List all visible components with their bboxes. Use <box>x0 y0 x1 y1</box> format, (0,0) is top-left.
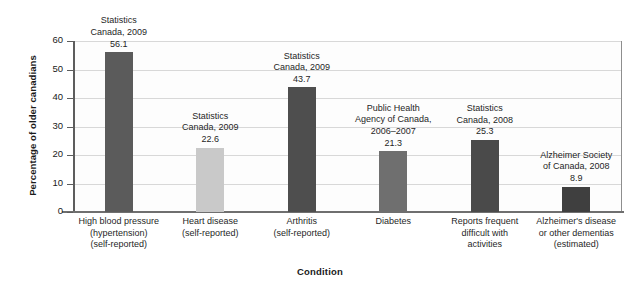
bar <box>105 52 133 212</box>
y-axis-line <box>73 41 75 213</box>
bar-chart: Percentage of older canadians 0102030405… <box>0 0 640 285</box>
y-tick-label-20: 20 <box>33 148 63 159</box>
x-category-label: Alzheimer's disease or other dementias (… <box>521 216 631 251</box>
y-tick-10 <box>67 184 73 185</box>
y-tick-label-30: 30 <box>33 120 63 131</box>
x-axis-title: Condition <box>0 266 640 277</box>
y-tick-label-50: 50 <box>33 63 63 74</box>
bar-annotation: Statistics Canada, 2009 22.6 <box>140 111 280 146</box>
bar <box>196 148 224 212</box>
bar <box>471 140 499 212</box>
y-tick-30 <box>67 127 73 128</box>
y-tick-label-10: 10 <box>33 177 63 188</box>
gridline-40 <box>74 98 621 99</box>
bar-annotation: Statistics Canada, 2009 43.7 <box>232 51 372 86</box>
y-tick-40 <box>67 98 73 99</box>
bar <box>562 187 590 212</box>
y-tick-label-0: 0 <box>33 205 63 216</box>
y-tick-20 <box>67 155 73 156</box>
bar-annotation: Alzheimer Society of Canada, 2008 8.9 <box>506 150 640 185</box>
y-tick-50 <box>67 70 73 71</box>
y-tick-label-40: 40 <box>33 91 63 102</box>
bar-annotation: Statistics Canada, 2009 56.1 <box>49 15 189 50</box>
bar <box>288 87 316 212</box>
y-tick-0 <box>67 212 73 213</box>
bar-annotation: Statistics Canada, 2008 25.3 <box>415 103 555 138</box>
x-axis-line <box>62 211 624 213</box>
bar <box>379 151 407 212</box>
